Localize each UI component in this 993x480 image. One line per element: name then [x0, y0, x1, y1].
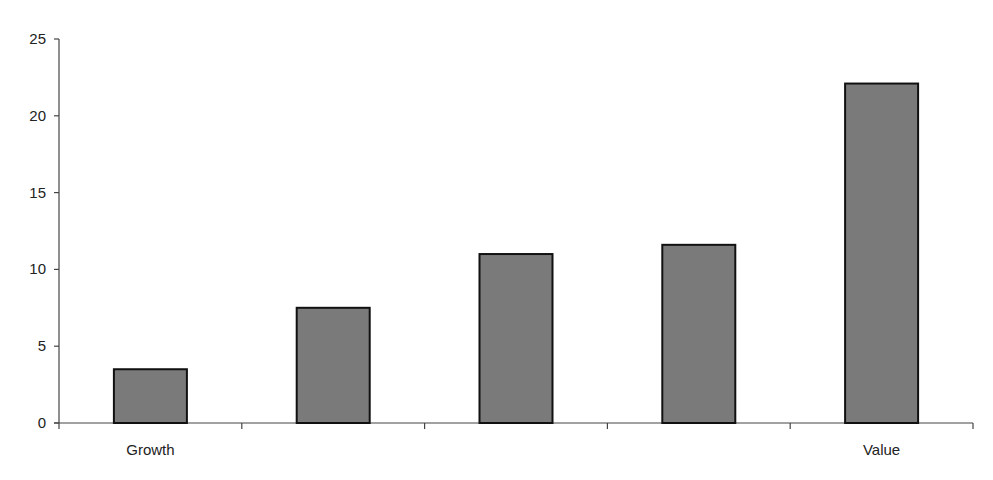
bar	[480, 254, 553, 423]
bar	[845, 84, 918, 423]
bars	[114, 84, 918, 423]
y-tick-label: 15	[29, 184, 46, 201]
x-axis: GrowthValue	[54, 423, 973, 458]
y-axis: 0510152025	[29, 30, 59, 431]
y-tick-label: 25	[29, 30, 46, 47]
bar	[114, 369, 187, 423]
bar-chart: 0510152025 GrowthValue	[0, 0, 993, 480]
x-category-label: Growth	[126, 441, 174, 458]
y-tick-label: 20	[29, 107, 46, 124]
y-tick-label: 0	[38, 414, 46, 431]
y-tick-label: 10	[29, 260, 46, 277]
x-category-label: Value	[863, 441, 900, 458]
y-tick-label: 5	[38, 337, 46, 354]
bar	[662, 245, 735, 423]
bar	[297, 308, 370, 423]
